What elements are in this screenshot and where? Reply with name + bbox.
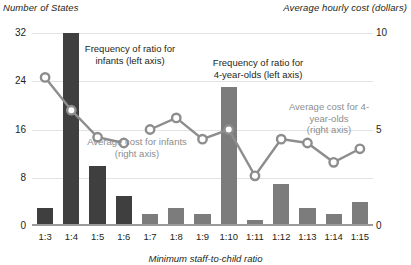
data-point-marker [303, 139, 311, 147]
x-axis-title: Minimum staff-to-child ratio [0, 253, 411, 264]
data-point-marker [172, 114, 180, 122]
y2-tick-label: 10 [376, 28, 406, 38]
x-tick-label: 1:8 [163, 231, 189, 242]
x-tick-label: 1:4 [58, 231, 84, 242]
x-tick-label: 1:11 [242, 231, 268, 242]
data-point-marker [67, 106, 75, 114]
x-tick-label: 1:7 [137, 231, 163, 242]
y-tick-label: 32 [0, 28, 26, 38]
annotation-infant-bars: Frequency of ratio for infants (left axi… [70, 43, 190, 66]
left-axis-title: Number of States [3, 2, 79, 13]
annotation-four-year-line: Average cost for 4- year-olds (right axi… [277, 101, 381, 136]
x-axis-baseline [32, 224, 373, 226]
data-point-marker [277, 135, 285, 143]
y2-tick-label: 0 [376, 221, 406, 231]
x-tick-label: 1:13 [294, 231, 320, 242]
y-tick-label: 24 [0, 76, 26, 86]
x-tick-label: 1:10 [216, 231, 242, 242]
x-tick-label: 1:5 [84, 231, 110, 242]
data-point-marker [225, 125, 233, 133]
data-point-marker [146, 125, 154, 133]
data-point-marker [251, 172, 259, 180]
y-tick-label: 8 [0, 173, 26, 183]
x-tick-label: 1:9 [189, 231, 215, 242]
right-axis-title: Average hourly cost (dollars) [283, 2, 407, 13]
chart-container: Number of States Average hourly cost (do… [0, 0, 411, 265]
x-tick-label: 1:14 [321, 231, 347, 242]
line-path [45, 77, 124, 143]
data-point-marker [198, 135, 206, 143]
y-tick-label: 0 [0, 221, 26, 231]
annotation-four-year-bars: Frequency of ratio for 4-year-olds (left… [198, 57, 318, 80]
x-tick-label: 1:6 [111, 231, 137, 242]
annotation-infant-line: Average cost for infants (right axis) [78, 136, 196, 159]
gridline [32, 226, 373, 227]
x-tick-label: 1:15 [347, 231, 373, 242]
data-point-marker [41, 73, 49, 81]
x-tick-label: 1:12 [268, 231, 294, 242]
data-point-marker [356, 145, 364, 153]
x-tick-label: 1:3 [32, 231, 58, 242]
y-tick-label: 16 [0, 125, 26, 135]
data-point-marker [329, 158, 337, 166]
